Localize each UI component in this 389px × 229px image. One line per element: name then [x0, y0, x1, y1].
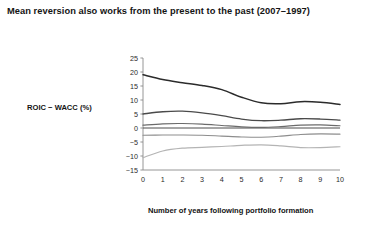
x-tick-label: 3 — [195, 175, 209, 184]
y-tick-label: 15 — [116, 82, 138, 91]
series-line-1 — [143, 111, 340, 121]
x-tick-label: 9 — [313, 175, 327, 184]
x-tick-label: 8 — [294, 175, 308, 184]
y-tick-label: 0 — [116, 124, 138, 133]
x-tick-label: 4 — [215, 175, 229, 184]
x-tick-label: 10 — [333, 175, 347, 184]
y-tick-label: −15 — [116, 166, 138, 175]
series-line-0 — [143, 75, 340, 105]
y-tick-label: −10 — [116, 152, 138, 161]
series-line-2 — [143, 124, 340, 128]
y-tick-label: 20 — [116, 68, 138, 77]
chart-canvas — [0, 0, 389, 229]
plot-area — [0, 0, 389, 229]
x-tick-label: 2 — [175, 175, 189, 184]
x-tick-label: 7 — [274, 175, 288, 184]
x-tick-label: 6 — [254, 175, 268, 184]
series-line-4 — [143, 145, 340, 158]
axis-lines — [143, 58, 340, 170]
series-line-3 — [143, 134, 340, 137]
x-tick-label: 0 — [136, 175, 150, 184]
x-axis-title: Number of years following portfolio form… — [148, 206, 313, 215]
series-layer — [143, 75, 340, 158]
y-tick-label: 5 — [116, 110, 138, 119]
y-tick-label: 10 — [116, 96, 138, 105]
chart-page: Mean reversion also works from the prese… — [0, 0, 389, 229]
x-tick-label: 5 — [235, 175, 249, 184]
y-tick-label: −5 — [116, 138, 138, 147]
y-tick-label: 25 — [116, 54, 138, 63]
y-axis-title: ROIC − WACC (%) — [27, 103, 92, 112]
x-tick-label: 1 — [156, 175, 170, 184]
